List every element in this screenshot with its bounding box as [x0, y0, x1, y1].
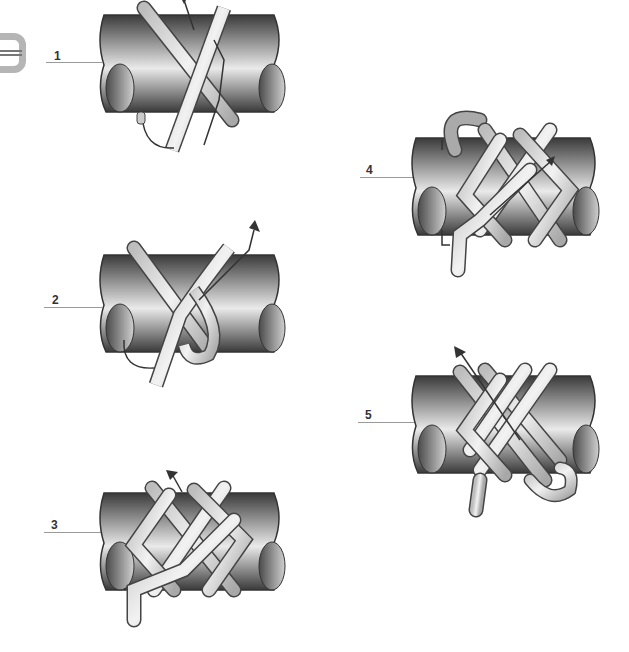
step-number-label: 4 — [366, 163, 373, 177]
step-number-label: 2 — [52, 293, 59, 307]
step-number-label: 1 — [54, 49, 61, 63]
step-number-label: 3 — [51, 518, 58, 532]
leader-line — [360, 177, 415, 178]
leader-line — [358, 422, 416, 423]
pipe-with-rope-step-2 — [94, 220, 294, 390]
pipe-with-rope-step-5 — [410, 340, 610, 520]
step-5-diagram: 5 — [350, 340, 629, 520]
pipe-with-rope-step-4 — [410, 110, 610, 280]
step-1-diagram: 1 — [0, 0, 320, 160]
step-3-diagram: 3 — [0, 460, 320, 630]
pipe-with-rope-step-1 — [94, 0, 294, 160]
pipe-with-rope-step-3 — [94, 460, 294, 630]
step-4-diagram: 4 — [350, 110, 629, 280]
step-number-label: 5 — [365, 408, 372, 422]
step-2-diagram: 2 — [0, 220, 320, 390]
